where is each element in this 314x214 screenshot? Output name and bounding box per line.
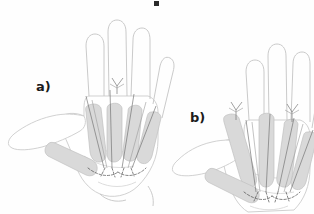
hand-outline-a [8, 20, 174, 206]
hand-outline-b [172, 44, 314, 212]
arrow-marker-a [110, 78, 124, 94]
figure-canvas: .hand-out { fill:#ffffff; stroke:#cccccc… [0, 0, 314, 214]
panel-label-b: b) [190, 110, 205, 125]
panel-label-a: a) [36, 79, 51, 94]
hand-diagram-svg: .hand-out { fill:#ffffff; stroke:#cccccc… [0, 0, 314, 214]
bone-middle-metacarpal-a [107, 103, 122, 162]
top-crop-artifact [154, 1, 159, 6]
